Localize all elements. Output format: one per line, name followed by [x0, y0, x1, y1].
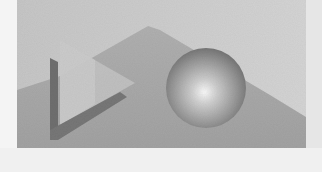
scene-canvas [0, 0, 322, 172]
sphere [166, 48, 246, 128]
rendered-scene [0, 0, 322, 172]
bottom-margin [0, 148, 322, 172]
right-margin [306, 0, 322, 148]
